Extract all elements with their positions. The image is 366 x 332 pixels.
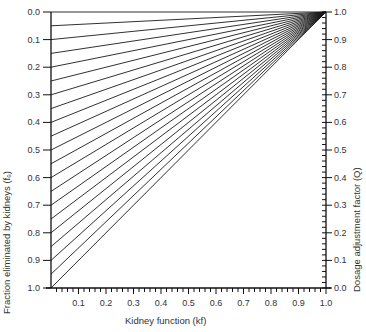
left-axis-ticks: 0.00.10.20.30.40.50.60.70.80.91.0 (27, 7, 51, 293)
right-tick-label: 0.7 (334, 90, 347, 100)
bottom-tick-label: 0.1 (72, 298, 85, 308)
nomogram-line (51, 12, 326, 191)
nomogram-line (51, 12, 326, 205)
nomogram-line (51, 12, 326, 136)
nomogram-line (51, 12, 326, 26)
right-tick-label: 0.8 (334, 62, 347, 72)
bottom-tick-label: 0.9 (292, 298, 305, 308)
bottom-tick-label: 0.6 (210, 298, 223, 308)
nomogram-line (51, 12, 326, 67)
nomogram-line (51, 12, 326, 219)
right-tick-label: 0.4 (334, 173, 347, 183)
right-tick-label: 1.0 (334, 7, 347, 17)
nomogram-line (51, 12, 326, 260)
right-tick-label: 0.3 (334, 200, 347, 210)
nomogram-chart: 0.00.10.20.30.40.50.60.70.80.91.0 1.00.9… (0, 0, 366, 332)
nomogram-line (51, 12, 326, 40)
right-tick-label: 0.5 (334, 145, 347, 155)
bottom-tick-label: 0.7 (237, 298, 250, 308)
right-axis-title: Dosage adjustment factor (Q) (351, 167, 362, 292)
left-tick-label: 0.4 (27, 117, 40, 127)
bottom-axis-ticks: 0.10.20.30.40.50.60.70.80.91.0 (57, 288, 333, 308)
left-tick-label: 0.5 (27, 145, 40, 155)
bottom-tick-label: 0.8 (265, 298, 278, 308)
right-tick-label: 0.6 (334, 117, 347, 127)
left-tick-label: 0.9 (27, 255, 40, 265)
left-tick-label: 0.7 (27, 200, 40, 210)
left-tick-label: 0.8 (27, 228, 40, 238)
nomogram-line (51, 12, 326, 164)
nomogram-line (51, 12, 326, 233)
nomogram-line (51, 12, 326, 122)
nomogram-line (51, 12, 326, 178)
nomogram-line (51, 12, 326, 81)
right-tick-label: 0.1 (334, 255, 347, 265)
left-axis-title: Fraction eliminated by kidneys (fₑ) (1, 171, 12, 314)
x-axis-title: Kidney function (kf) (125, 315, 206, 326)
left-tick-label: 0.6 (27, 173, 40, 183)
nomogram-line (51, 12, 326, 109)
left-tick-label: 0.2 (27, 62, 40, 72)
bottom-tick-label: 0.2 (100, 298, 113, 308)
nomogram-lines (51, 12, 326, 288)
bottom-tick-label: 0.4 (155, 298, 168, 308)
bottom-tick-label: 1.0 (320, 298, 333, 308)
left-tick-label: 1.0 (27, 283, 40, 293)
bottom-tick-label: 0.5 (182, 298, 195, 308)
right-tick-label: 0.0 (334, 283, 347, 293)
right-tick-label: 0.2 (334, 228, 347, 238)
left-tick-label: 0.0 (27, 7, 40, 17)
left-tick-label: 0.3 (27, 90, 40, 100)
left-tick-label: 0.1 (27, 35, 40, 45)
bottom-tick-label: 0.3 (127, 298, 140, 308)
right-tick-label: 0.9 (334, 35, 347, 45)
nomogram-line (51, 12, 326, 274)
